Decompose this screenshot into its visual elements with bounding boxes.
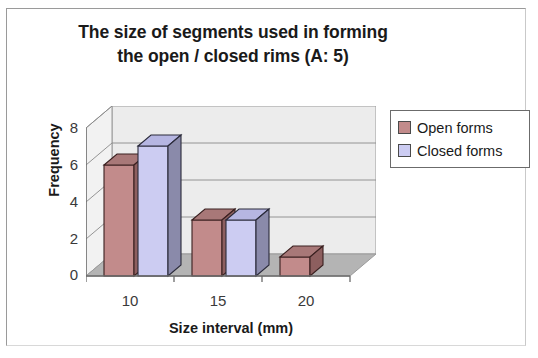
- legend-label-closed-forms: Closed forms: [417, 143, 502, 159]
- chart-legend: Open forms Closed forms: [390, 110, 530, 168]
- legend-swatch-closed-forms: [398, 144, 411, 157]
- chart-title-line-2: the open / closed rims (A: 5): [18, 44, 448, 68]
- y-tick-label-6: 6: [56, 156, 78, 173]
- y-tick-label-2: 2: [56, 230, 78, 247]
- chart-title: The size of segments used in forming the…: [18, 20, 448, 68]
- legend-item-open-forms: Open forms: [398, 116, 529, 139]
- y-tick-label-8: 8: [56, 119, 78, 136]
- legend-label-open-forms: Open forms: [417, 120, 493, 136]
- y-tick-label-0: 0: [56, 266, 78, 283]
- legend-swatch-open-forms: [398, 121, 411, 134]
- x-tick-label-15: 15: [198, 292, 238, 309]
- chart-plot-svg: [86, 106, 376, 284]
- chart-title-line-1: The size of segments used in forming: [18, 20, 448, 44]
- chart-container: The size of segments used in forming the…: [0, 0, 538, 358]
- x-tick-marks: [86, 276, 350, 282]
- plot-area: [86, 106, 376, 284]
- x-axis-label: Size interval (mm): [86, 320, 376, 336]
- bar-closed-forms-10: [138, 135, 181, 276]
- x-tick-label-20: 20: [286, 292, 326, 309]
- legend-item-closed-forms: Closed forms: [398, 139, 529, 162]
- y-tick-label-4: 4: [56, 193, 78, 210]
- x-tick-label-10: 10: [110, 292, 150, 309]
- bar-closed-forms-15: [226, 209, 269, 276]
